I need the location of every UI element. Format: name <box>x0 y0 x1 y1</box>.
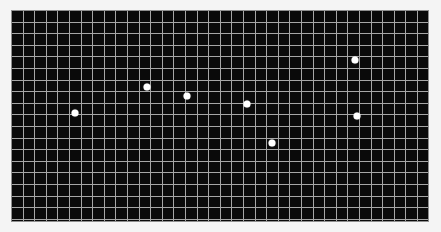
data-point[interactable] <box>354 113 361 120</box>
x-axis-label <box>0 0 1 1</box>
y-axis-label <box>0 0 1 1</box>
data-point[interactable] <box>184 93 191 100</box>
data-point[interactable] <box>352 57 359 64</box>
chart-title <box>0 0 1 1</box>
data-point[interactable] <box>269 140 276 147</box>
plot-area <box>11 10 429 222</box>
data-point[interactable] <box>72 110 79 117</box>
data-point[interactable] <box>144 84 151 91</box>
data-points-layer <box>11 10 429 222</box>
data-point[interactable] <box>244 101 251 108</box>
scatter-plot-figure <box>0 0 441 232</box>
